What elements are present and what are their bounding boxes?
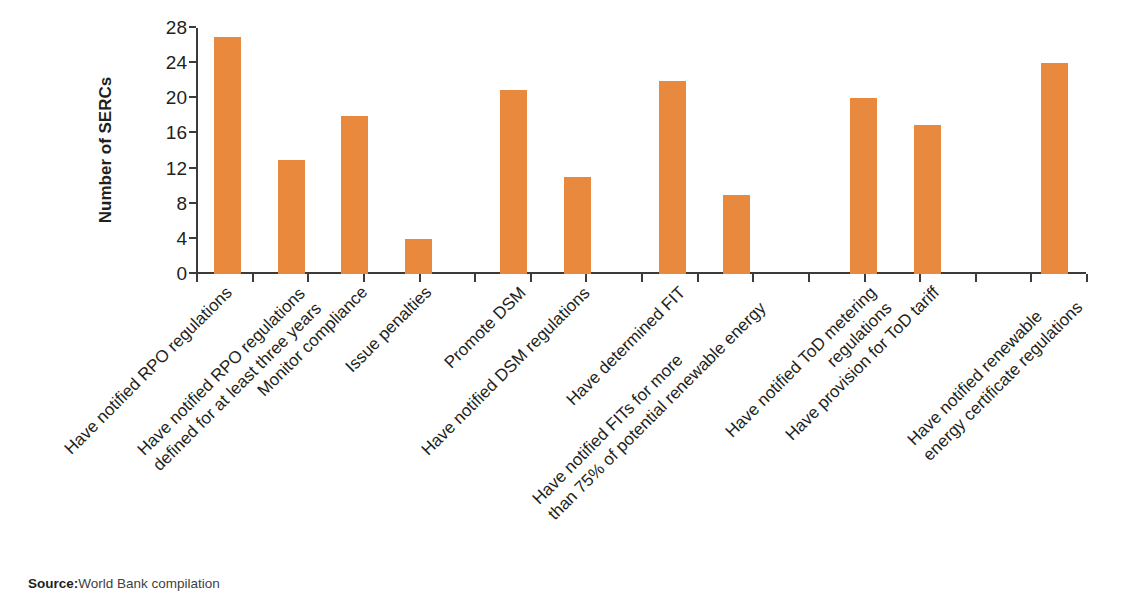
x-tick bbox=[864, 274, 866, 282]
y-axis-title: Number of SERCs bbox=[96, 77, 116, 223]
y-tick-label: 4 bbox=[176, 228, 187, 247]
x-tick bbox=[307, 274, 309, 282]
y-tick-label: 8 bbox=[176, 193, 187, 212]
x-tick bbox=[474, 274, 476, 282]
bar[interactable] bbox=[1041, 63, 1068, 274]
bar[interactable] bbox=[914, 125, 941, 274]
x-axis-label-line: defined for at least three years bbox=[149, 298, 327, 476]
x-tick bbox=[419, 274, 421, 282]
y-tick-label: 16 bbox=[166, 123, 187, 142]
y-tick-label: 28 bbox=[166, 17, 187, 36]
plot-area: 0481216202428 bbox=[196, 26, 1086, 274]
x-tick bbox=[530, 274, 532, 282]
source-prefix: Source: bbox=[28, 576, 78, 591]
y-tick-label: 24 bbox=[166, 53, 187, 72]
bar[interactable] bbox=[850, 98, 877, 274]
x-tick bbox=[975, 274, 977, 282]
x-tick bbox=[1086, 274, 1088, 282]
bar[interactable] bbox=[214, 37, 241, 274]
y-tick bbox=[189, 237, 196, 239]
x-tick bbox=[697, 274, 699, 282]
x-tick bbox=[252, 274, 254, 282]
source-note: Source:World Bank compilation bbox=[28, 576, 220, 591]
x-axis-label: Have notified RPO regulationsdefined for… bbox=[133, 282, 327, 476]
chart-figure: Number of SERCs 0481216202428 Have notif… bbox=[0, 0, 1121, 591]
y-tick bbox=[189, 202, 196, 204]
bar[interactable] bbox=[723, 195, 750, 274]
x-axis-label-line: energy certificate regulations bbox=[919, 298, 1089, 468]
x-tick bbox=[363, 274, 365, 282]
x-tick bbox=[808, 274, 810, 282]
y-tick bbox=[189, 61, 196, 63]
x-tick bbox=[641, 274, 643, 282]
x-tick bbox=[919, 274, 921, 282]
bar[interactable] bbox=[278, 160, 305, 274]
y-tick-label: 0 bbox=[176, 264, 187, 283]
y-tick bbox=[189, 272, 196, 274]
x-axis-label-line: Have notified renewable bbox=[903, 307, 1045, 449]
x-tick bbox=[585, 274, 587, 282]
bar[interactable] bbox=[341, 116, 368, 274]
x-tick bbox=[196, 274, 198, 282]
bar[interactable] bbox=[564, 177, 591, 274]
x-tick bbox=[752, 274, 754, 282]
y-tick bbox=[189, 131, 196, 133]
bar[interactable] bbox=[405, 239, 432, 274]
y-tick-label: 20 bbox=[166, 88, 187, 107]
y-tick bbox=[189, 96, 196, 98]
bar[interactable] bbox=[500, 90, 527, 275]
bar[interactable] bbox=[659, 81, 686, 274]
x-tick bbox=[1030, 274, 1032, 282]
y-tick bbox=[189, 167, 196, 169]
y-tick bbox=[189, 26, 196, 28]
y-tick-label: 12 bbox=[166, 158, 187, 177]
source-text: World Bank compilation bbox=[78, 576, 220, 591]
